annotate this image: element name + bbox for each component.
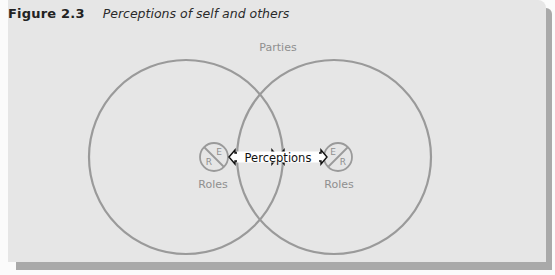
perceptions-label: Perceptions: [245, 151, 312, 165]
left-roles-letter-r: R: [206, 157, 212, 167]
parties-label: Parties: [259, 41, 297, 54]
right-roles-letter-r: R: [340, 157, 346, 167]
venn-diagram: Parties E R Roles E R Roles P: [0, 0, 555, 275]
perceptions-arrows: Perceptions: [229, 150, 327, 165]
right-roles-node: E R Roles: [324, 143, 354, 191]
right-roles-label: Roles: [324, 178, 354, 191]
left-roles-label: Roles: [198, 178, 228, 191]
figure-page: Figure 2.3 Perceptions of self and other…: [0, 0, 555, 275]
left-roles-letter-e: E: [216, 147, 222, 157]
left-roles-node: E R Roles: [198, 143, 228, 191]
right-roles-letter-e: E: [330, 147, 336, 157]
